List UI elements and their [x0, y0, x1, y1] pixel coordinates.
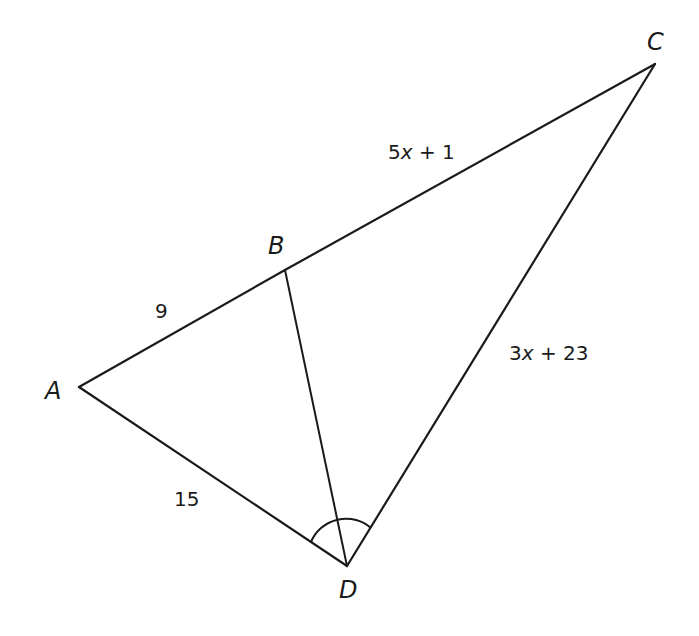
measure-cd-variable: x — [522, 341, 534, 365]
vertex-label-a: A — [45, 379, 61, 403]
vertex-label-d: D — [339, 578, 357, 602]
measure-cd-coef: 3 — [509, 341, 522, 365]
segment-ad — [79, 387, 347, 566]
segment-ab — [79, 270, 285, 387]
measure-cd: 3x + 23 — [509, 343, 589, 363]
measure-bc: 5x + 1 — [388, 142, 455, 162]
segment-bd-bisector — [285, 270, 347, 566]
measure-bc-coef: 5 — [388, 140, 401, 164]
measure-ab: 9 — [155, 301, 168, 321]
measure-ad: 15 — [174, 489, 199, 509]
measure-cd-const: + 23 — [534, 341, 589, 365]
measure-bc-const: + 1 — [413, 140, 455, 164]
vertex-label-b: B — [268, 234, 284, 258]
segment-bc — [285, 64, 655, 270]
triangle-diagram — [0, 0, 699, 636]
measure-bc-variable: x — [401, 140, 413, 164]
vertex-label-c: C — [647, 30, 664, 54]
